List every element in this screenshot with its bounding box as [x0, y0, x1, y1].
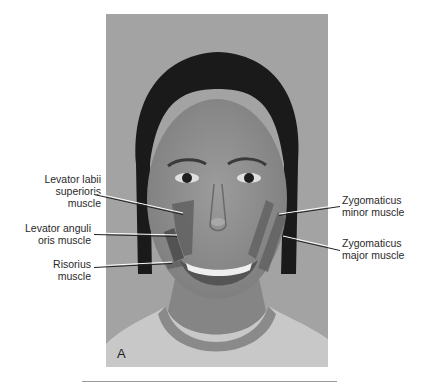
label-risorius: Risorius muscle	[53, 258, 91, 282]
face-illustration	[106, 14, 328, 367]
label-zygomaticus-minor: Zygomaticus minor muscle	[342, 194, 404, 218]
label-levator-labii-superioris: Levator labii superioris muscle	[44, 173, 101, 209]
face-photo	[106, 14, 328, 367]
label-levator-anguli-oris: Levator anguli oris muscle	[25, 222, 91, 246]
bottom-rule	[82, 381, 337, 382]
panel-letter: A	[117, 346, 126, 361]
label-zygomaticus-major: Zygomaticus major muscle	[342, 237, 404, 261]
